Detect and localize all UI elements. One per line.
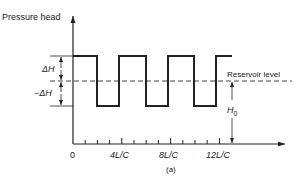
x-tick-label-12lc: 12L/C	[206, 150, 231, 160]
y-axis-label: Pressure head	[2, 12, 61, 22]
x-tick-label-8lc: 8L/C	[159, 150, 179, 160]
x-tick-label-0: 0	[70, 150, 75, 160]
pressure-head-diagram: Pressure head ΔH −ΔH Reservoir level H0 …	[0, 0, 297, 179]
reservoir-level-label: Reservoir level	[227, 70, 280, 79]
figure-caption: (a)	[166, 165, 176, 174]
pressure-square-wave	[73, 56, 232, 106]
x-tick-label-4lc: 4L/C	[110, 150, 130, 160]
h0-label: H0	[227, 105, 238, 117]
x-axis-ticks	[85, 138, 219, 144]
plus-delta-h-label: ΔH	[41, 64, 55, 74]
minus-delta-h-label: −ΔH	[34, 88, 52, 98]
